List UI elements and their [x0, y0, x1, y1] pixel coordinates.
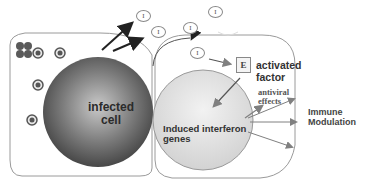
induced-genes-label-line2: genes: [163, 134, 246, 144]
antiviral-effects-label: antiviral effects: [258, 88, 289, 107]
interferon-molecule: I: [208, 6, 223, 18]
virus-particle-icon: [55, 48, 65, 58]
activated-factor-box: E: [236, 57, 251, 73]
immune-label-line2: Modulation: [308, 118, 356, 128]
infected-cell-label-line2: cell: [76, 114, 146, 127]
antiviral-label-line2: effects: [258, 97, 289, 106]
virus-particle-icon: [27, 115, 37, 125]
induced-nucleus: [153, 70, 253, 170]
interferon-molecule: I: [190, 47, 205, 59]
induced-genes-label: Induced interferon genes: [163, 124, 246, 145]
activated-factor-label-line2: factor: [256, 72, 302, 84]
virus-particle-icon: [33, 48, 43, 58]
immune-modulation-label: Immune Modulation: [308, 108, 356, 128]
activated-factor-label-line1: activated: [256, 60, 302, 72]
activated-factor-label: activated factor: [256, 60, 302, 83]
interferon-molecule: I: [183, 22, 198, 34]
virus-particle-icon: [33, 80, 43, 90]
infected-cell-label: infected cell: [76, 101, 146, 127]
interferon-molecule: I: [151, 26, 166, 38]
interferon-pathway-diagram: I I I I I E infected cell Induced interf…: [0, 0, 366, 185]
interferon-molecule: I: [136, 10, 151, 22]
